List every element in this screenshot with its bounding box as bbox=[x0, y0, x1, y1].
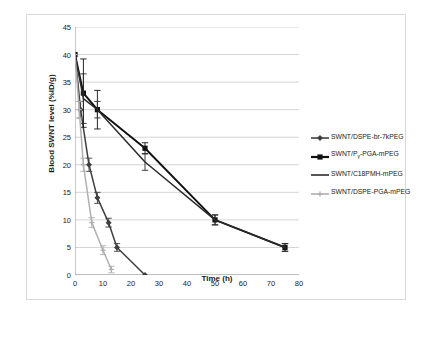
legend-marker-icon bbox=[311, 149, 329, 161]
x-axis-tick-label: 40 bbox=[183, 279, 191, 288]
legend-label: SWNT/C18PMH-mPEG bbox=[331, 170, 403, 177]
x-axis-tick-label: 0 bbox=[73, 279, 77, 288]
x-axis-tick-label: 50 bbox=[211, 279, 219, 288]
y-axis-tick-label: 40 bbox=[63, 50, 71, 59]
y-axis-tick-label: 10 bbox=[63, 215, 71, 224]
legend-item[interactable]: SWNT/Pγ-PGA-mPEG bbox=[311, 146, 407, 165]
legend-label: SWNT/Pγ-PGA-mPEG bbox=[331, 150, 399, 159]
legend-label: SWNT/DSPE-PGA-mPEG bbox=[331, 188, 410, 195]
y-axis-tick-label: 45 bbox=[63, 23, 71, 32]
x-axis-tick-label: 70 bbox=[267, 279, 275, 288]
series-0 bbox=[75, 52, 148, 275]
y-axis-tick-label: 35 bbox=[63, 78, 71, 87]
legend-marker-icon bbox=[311, 186, 329, 198]
legend-label: SWNT/DSPE-br-7kPEG bbox=[331, 133, 404, 140]
x-axis-tick-label: 60 bbox=[239, 279, 247, 288]
y-axis-tick-label: 15 bbox=[63, 188, 71, 197]
y-axis-title: Blood SWNT level (%ID/g) bbox=[47, 44, 56, 204]
x-axis-tick-label: 80 bbox=[295, 279, 303, 288]
y-axis-tick-label: 0 bbox=[67, 271, 71, 280]
y-axis-tick-label: 20 bbox=[63, 160, 71, 169]
chart-figure: Blood SWNT level (%ID/g) Time (h) 051015… bbox=[26, 14, 406, 300]
legend-marker-icon bbox=[311, 167, 329, 179]
x-axis-tick-label: 10 bbox=[99, 279, 107, 288]
y-axis-tick-label: 5 bbox=[67, 243, 71, 252]
chart-legend: SWNT/DSPE-br-7kPEGSWNT/Pγ-PGA-mPEGSWNT/C… bbox=[311, 127, 407, 201]
y-axis-tick-label: 25 bbox=[63, 133, 71, 142]
legend-item[interactable]: SWNT/DSPE-br-7kPEG bbox=[311, 127, 407, 146]
y-axis-tick-label: 30 bbox=[63, 105, 71, 114]
chart-canvas bbox=[75, 27, 299, 275]
legend-item[interactable]: SWNT/C18PMH-mPEG bbox=[311, 164, 407, 183]
legend-item[interactable]: SWNT/DSPE-PGA-mPEG bbox=[311, 183, 407, 202]
x-axis-tick-label: 30 bbox=[155, 279, 163, 288]
plot-area: 05101520253035404501020304050607080 bbox=[75, 27, 299, 275]
x-axis-tick-label: 20 bbox=[127, 279, 135, 288]
legend-marker-icon bbox=[311, 130, 329, 142]
